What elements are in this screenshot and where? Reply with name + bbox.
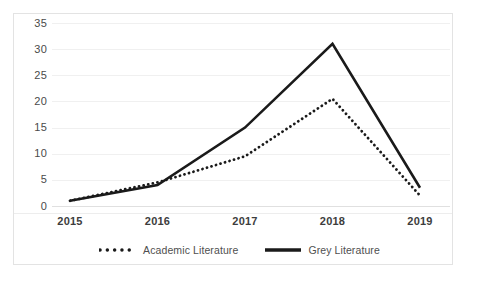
x-axis-tick-2019: 2019 [407, 215, 432, 227]
legend-item-grey-literature[interactable]: Grey Literature [264, 244, 380, 256]
x-axis-tick-2017: 2017 [232, 215, 257, 227]
x-axis-tick-labels: 20152016201720182019 [0, 215, 479, 235]
chart-legend: Academic Literature Grey Literature [0, 241, 479, 259]
legend-label-grey-literature: Grey Literature [308, 244, 380, 256]
solid-line-swatch [264, 247, 302, 253]
legend-label-academic-literature: Academic Literature [143, 244, 238, 256]
x-axis-tick-2015: 2015 [57, 215, 82, 227]
legend-item-academic-literature[interactable]: Academic Literature [99, 244, 238, 256]
series-line-academic-literature [70, 99, 420, 201]
dotted-line-swatch [99, 247, 137, 253]
x-axis-tick-2018: 2018 [320, 215, 345, 227]
x-axis-tick-2016: 2016 [145, 215, 170, 227]
line-chart: 05101520253035 20152016201720182019 Acad… [0, 0, 479, 285]
series-line-grey-literature [70, 44, 420, 201]
